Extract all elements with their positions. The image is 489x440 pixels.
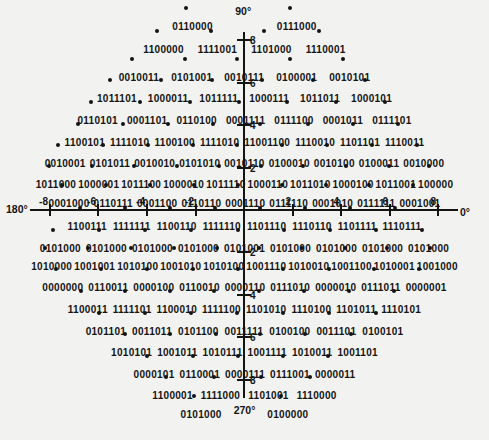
point-label: 0010111 [224, 72, 264, 83]
constellation-diagram: 90° 180° 0° -8-6-4-2246886422468 0110000… [0, 0, 489, 440]
point-label: 0101000 [181, 409, 222, 420]
point-label: 0111111 [357, 198, 395, 209]
constellation-point: 0010101 [329, 67, 370, 85]
constellation-point: 1011100 [121, 174, 161, 192]
point-dot-icon [191, 267, 195, 271]
point-dot-icon [212, 375, 216, 379]
point-label: 1000001 [78, 179, 119, 190]
constellation-point: 1100011 [68, 299, 108, 317]
constellation-point: 1110011 [385, 132, 424, 150]
point-dot-icon [97, 311, 101, 315]
point-label: 1111001 [198, 44, 237, 55]
constellation-point: 1011001 [376, 174, 416, 192]
point-label: 1110101 [381, 304, 421, 315]
constellation-point: 1101011 [336, 299, 376, 317]
point-label: 0110111 [94, 198, 133, 209]
constellation-point: 0000111 [225, 364, 265, 382]
point-dot-icon [172, 246, 176, 250]
constellation-point: 1001000 [417, 256, 458, 274]
constellation-point: 1100001 [152, 385, 192, 403]
point-label: 0111101 [372, 115, 411, 126]
point-dot-icon [363, 78, 367, 82]
point-label: 1100011 [68, 304, 108, 315]
constellation-point: 1001010 [160, 256, 201, 274]
constellation-point: 0101000 [362, 238, 403, 256]
constellation-row: 00100110101001001011101000010010101 [0, 67, 489, 85]
point-dot-icon [89, 100, 93, 104]
constellation-row: 1011000100000110111001000010101111010001… [0, 174, 489, 192]
constellation-row: 0101101001101101011000011111010010000111… [0, 321, 489, 339]
point-label: 0000000 [42, 282, 83, 293]
point-label: 1110100 [291, 304, 331, 315]
constellation-point: 1010100 [203, 256, 244, 274]
point-dot-icon [343, 246, 347, 250]
constellation-point: 1101111 [338, 216, 377, 234]
constellation-point: 0001001 [399, 193, 440, 211]
constellation-point: 0011111 [225, 321, 264, 339]
constellation-point: 1110111 [383, 216, 422, 234]
point-label: 0111001 [270, 369, 310, 380]
point-dot-icon [237, 100, 241, 104]
constellation-point: 0101000 [132, 238, 173, 256]
point-label: 1101101 [340, 137, 380, 148]
point-dot-icon [411, 183, 415, 187]
point-label: 0010001 [45, 158, 86, 169]
point-label: 0000001 [406, 282, 447, 293]
point-label: 1001010 [160, 261, 201, 272]
constellation-point: 0000101 [134, 364, 175, 382]
constellation-point: 1011101 [97, 88, 137, 106]
constellation-point: 0110001 [180, 364, 220, 382]
point-label: 1010001 [374, 261, 415, 272]
point-label: 0100000 [267, 409, 308, 420]
constellation-point: 0101000 [316, 238, 357, 256]
point-dot-icon [209, 29, 213, 33]
point-label: 1100111 [68, 221, 107, 232]
constellation-point: 0101010 [179, 153, 220, 171]
point-label: 0001001 [399, 198, 440, 209]
constellation-point: 0100100 [269, 321, 310, 339]
point-dot-icon [213, 206, 217, 210]
point-label: 1011100 [121, 179, 161, 190]
constellation-row: 0001000011011100011000110110000111001111… [0, 193, 489, 211]
point-dot-icon [282, 228, 286, 232]
constellation-point: 1001110 [246, 256, 286, 274]
point-dot-icon [427, 164, 431, 168]
point-dot-icon [101, 143, 105, 147]
constellation-point: 0101001 [171, 67, 212, 85]
constellation-point: 1110010 [295, 132, 335, 150]
point-dot-icon [86, 246, 90, 250]
point-label: 0101011 [90, 158, 130, 169]
constellation-point: 0100001 [276, 67, 317, 85]
point-label: 0101010 [179, 158, 220, 169]
constellation-point: 1010000 [31, 256, 72, 274]
point-label: 1001100 [331, 261, 371, 272]
point-dot-icon [211, 122, 215, 126]
point-dot-icon [281, 354, 285, 358]
constellation-row: 00001010110001000011101110010000011 [0, 364, 489, 382]
constellation-point: 1010010 [288, 256, 329, 274]
point-dot-icon [183, 57, 187, 61]
point-label: 0101000 [178, 243, 219, 254]
constellation-row: 0010001010101100100100101010001011001000… [0, 153, 489, 171]
constellation-row: 1100111111111111001101111110110111011101… [0, 216, 489, 234]
point-label: 1110111 [383, 221, 422, 232]
point-label: 0001101 [127, 115, 167, 126]
constellation-row: 1100101111101011001001111010110011001110… [0, 132, 489, 150]
point-dot-icon [168, 206, 172, 210]
point-label: 0101000 [132, 243, 173, 254]
point-dot-icon [383, 100, 387, 104]
point-label: 0100101 [362, 326, 403, 337]
constellation-point: 0110101 [77, 110, 117, 128]
point-dot-icon [184, 6, 188, 10]
constellation-point: 0000000 [42, 277, 83, 295]
constellation-point: 0000001 [406, 277, 447, 295]
constellation-point: 0011011 [132, 321, 172, 339]
point-label: 0101101 [86, 326, 126, 337]
point-dot-icon [372, 267, 376, 271]
constellation-point: 1100000 [143, 39, 183, 57]
point-dot-icon [130, 57, 134, 61]
point-label: 1111010 [200, 137, 239, 148]
constellation-point: 1001101 [337, 342, 377, 360]
point-dot-icon [168, 289, 172, 293]
point-label: 0000011 [315, 369, 355, 380]
